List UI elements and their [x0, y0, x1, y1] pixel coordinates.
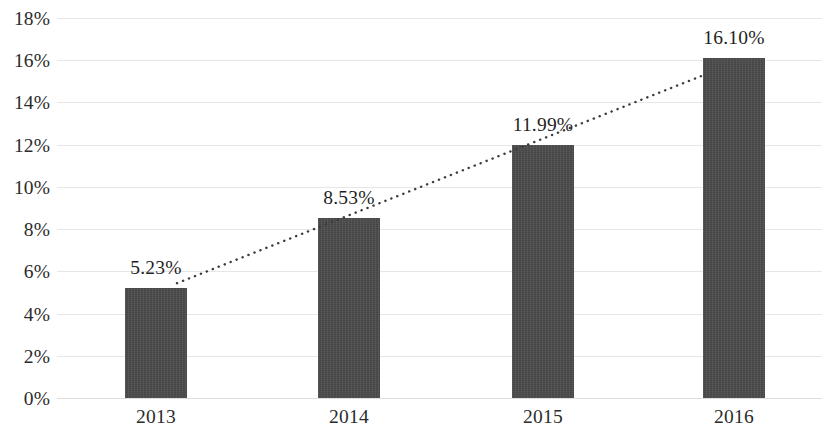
bar-2014: [318, 218, 380, 398]
data-label-2015: 11.99%: [483, 115, 603, 135]
y-axis-tick-label: 10%: [0, 178, 50, 198]
x-axis-tick-label-2016: 2016: [674, 407, 794, 427]
y-axis-tick-label: 6%: [0, 262, 50, 282]
y-axis-tick-label: 14%: [0, 93, 50, 113]
trendline-path: [177, 75, 705, 284]
gridline: [57, 18, 822, 19]
y-axis-tick-label: 12%: [0, 136, 50, 156]
data-label-2016: 16.10%: [674, 28, 794, 48]
bar-chart: 0%2%4%6%8%10%12%14%16%18% 5.23%8.53%11.9…: [0, 0, 827, 428]
x-axis-tick-label-2013: 2013: [96, 407, 216, 427]
bar-2015: [512, 145, 574, 398]
plot-area: 0%2%4%6%8%10%12%14%16%18% 5.23%8.53%11.9…: [0, 0, 827, 428]
x-axis-tick-label-2015: 2015: [483, 407, 603, 427]
y-axis-tick-label: 0%: [0, 389, 50, 409]
gridline: [57, 398, 822, 399]
y-axis-tick-label: 18%: [0, 9, 50, 29]
bar-2016: [703, 58, 765, 398]
x-axis-tick-label-2014: 2014: [289, 407, 409, 427]
bar-2013: [125, 288, 187, 398]
y-axis-tick-label: 4%: [0, 305, 50, 325]
y-axis-tick-label: 2%: [0, 347, 50, 367]
data-label-2013: 5.23%: [96, 258, 216, 278]
data-label-2014: 8.53%: [289, 188, 409, 208]
y-axis-tick-label: 16%: [0, 51, 50, 71]
y-axis-tick-label: 8%: [0, 220, 50, 240]
